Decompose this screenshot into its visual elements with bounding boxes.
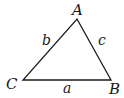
vertex-label-c: C bbox=[6, 75, 18, 93]
side-label-a: a bbox=[63, 80, 71, 96]
side-label-c: c bbox=[98, 32, 106, 48]
vertex-label-b: B bbox=[108, 80, 120, 98]
side-label-b: b bbox=[42, 32, 51, 48]
vertex-label-a: A bbox=[70, 1, 83, 19]
triangle-diagram: A B C a b c bbox=[0, 0, 124, 98]
triangle-shape bbox=[23, 19, 111, 80]
